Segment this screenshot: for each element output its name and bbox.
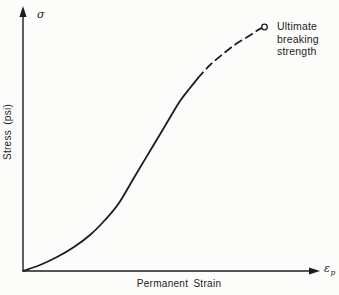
annotation-line-1: Ultimate xyxy=(277,20,317,32)
stress-strain-diagram: σ ε p Stress (psi) Permanent Strain Ulti… xyxy=(0,0,339,295)
y-axis-arrowhead-icon xyxy=(19,6,26,17)
x-axis-label: Permanent Strain xyxy=(137,278,222,289)
diagram-canvas: σ ε p Stress (psi) Permanent Strain Ulti… xyxy=(0,0,339,295)
annotation-line-3: strength xyxy=(277,45,317,57)
annotation-line-2: breaking xyxy=(277,33,319,45)
stress-curve-dashed xyxy=(198,28,262,78)
breaking-point-marker xyxy=(262,24,268,30)
stress-curve-solid xyxy=(23,78,198,271)
x-axis-arrowhead-icon xyxy=(309,267,320,274)
epsilon-symbol: ε xyxy=(324,262,330,275)
epsilon-subscript: p xyxy=(331,268,336,277)
y-axis-label: Stress (psi) xyxy=(2,104,13,160)
sigma-symbol: σ xyxy=(37,8,45,21)
